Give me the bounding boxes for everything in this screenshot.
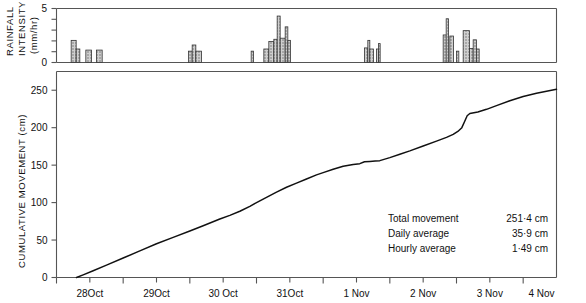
rainfall-bar bbox=[463, 31, 469, 63]
movement-y-tick-label: 150 bbox=[31, 160, 48, 171]
daily-average-label: Daily average bbox=[388, 228, 450, 239]
movement-x-tick-label: 3 Nov bbox=[477, 288, 503, 299]
rainfall-bar bbox=[277, 16, 280, 62]
rainfall-bar bbox=[288, 40, 291, 62]
rainfall-bar bbox=[76, 49, 80, 63]
rainfall-bar bbox=[473, 40, 476, 63]
cumulative-movement-panel: 050100150200250 CUMULATIVE MOVEMENT (cm)… bbox=[16, 72, 557, 299]
movement-y-tick-label: 200 bbox=[31, 122, 48, 133]
rainfall-bar bbox=[470, 48, 474, 62]
rainfall-and-cumulative-movement-figure: 5 0 RAINFALL INTENSITY (mm/hr) 050100150… bbox=[0, 0, 586, 303]
rainfall-axis-title-line3: (mm/hr) bbox=[28, 17, 39, 54]
rainfall-y-ticks bbox=[52, 9, 57, 63]
rainfall-bar bbox=[97, 50, 103, 62]
movement-axis-title: CUMULATIVE MOVEMENT (cm) bbox=[16, 114, 27, 268]
movement-y-tick-label: 0 bbox=[42, 272, 48, 283]
cumulative-movement-curve bbox=[77, 89, 557, 277]
rainfall-bar bbox=[274, 39, 277, 62]
movement-y-tick-labels: 050100150200250 bbox=[31, 85, 48, 283]
rainfall-bar bbox=[251, 51, 253, 62]
rainfall-bar bbox=[86, 50, 92, 62]
rainfall-bar-group bbox=[71, 16, 479, 62]
figure-svg: 5 0 RAINFALL INTENSITY (mm/hr) 050100150… bbox=[0, 0, 586, 303]
rainfall-bar bbox=[269, 41, 274, 62]
movement-x-tick-label: 29Oct bbox=[143, 288, 170, 299]
rainfall-bar bbox=[196, 51, 202, 62]
movement-y-tick-label: 100 bbox=[31, 197, 48, 208]
total-movement-label: Total movement bbox=[388, 213, 459, 224]
rainfall-bar bbox=[450, 36, 454, 62]
movement-y-tick-label: 50 bbox=[36, 235, 48, 246]
rainfall-bar bbox=[477, 49, 480, 63]
movement-x-tick-label: 30 Oct bbox=[208, 288, 238, 299]
rainfall-bar bbox=[457, 51, 459, 62]
movement-y-ticks bbox=[52, 90, 57, 277]
rainfall-bar bbox=[71, 40, 76, 62]
rainfall-bar bbox=[379, 44, 381, 63]
total-movement-value: 251·4 cm bbox=[506, 213, 548, 224]
rainfall-ytick-0: 0 bbox=[41, 57, 47, 68]
hourly-average-value: 1·49 cm bbox=[512, 243, 548, 254]
rainfall-bar bbox=[280, 38, 285, 62]
rainfall-ytick-5: 5 bbox=[41, 3, 47, 14]
rainfall-bar bbox=[370, 49, 374, 63]
movement-x-tick-label: 1 Nov bbox=[343, 288, 369, 299]
hourly-average-label: Hourly average bbox=[388, 243, 456, 254]
movement-x-tick-label-last: 4 Nov bbox=[528, 288, 554, 299]
rainfall-bar bbox=[189, 51, 193, 62]
summary-annotation: Total movement 251·4 cm Daily average 35… bbox=[388, 213, 548, 254]
rainfall-bar bbox=[192, 45, 196, 63]
rainfall-bar bbox=[446, 19, 448, 63]
movement-x-tick-labels: 28Oct29Oct30 Oct31Oct1 Nov2 Nov3 Nov4 No… bbox=[76, 288, 554, 299]
rainfall-axis-title-line2: INTENSITY bbox=[16, 1, 27, 56]
rainfall-bar bbox=[264, 49, 269, 63]
movement-x-ticks bbox=[57, 278, 524, 284]
movement-x-tick-label: 2 Nov bbox=[410, 288, 436, 299]
movement-x-tick-label: 31Oct bbox=[276, 288, 303, 299]
movement-x-tick-label: 28Oct bbox=[76, 288, 103, 299]
rainfall-panel: 5 0 RAINFALL INTENSITY (mm/hr) bbox=[4, 1, 557, 68]
daily-average-value: 35·9 cm bbox=[512, 228, 548, 239]
rainfall-axis-title-line1: RAINFALL bbox=[4, 6, 15, 56]
rainfall-bar bbox=[365, 48, 368, 63]
movement-y-tick-label: 250 bbox=[31, 85, 48, 96]
